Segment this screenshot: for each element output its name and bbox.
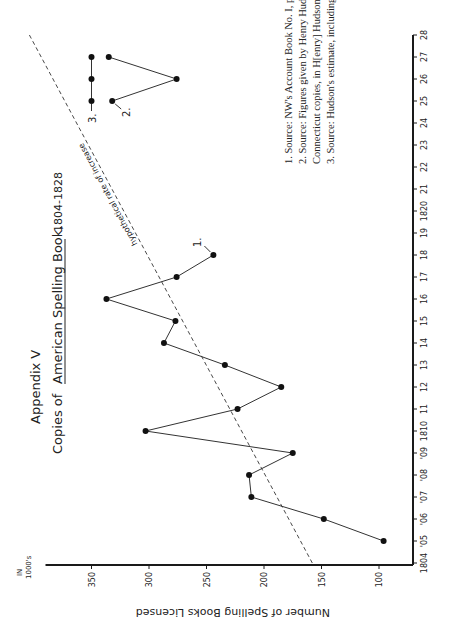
- series-1: 1.: [103, 237, 386, 544]
- x-tick-label: 27: [420, 52, 429, 62]
- series-group: 1.2.3.: [87, 54, 387, 544]
- y-axis-title: Number of Spelling Books Licensed: [136, 606, 330, 619]
- x-tick-label: 17: [420, 272, 429, 282]
- series-2: 2.: [106, 54, 180, 117]
- trend-label: hypothetical rate of increase: [77, 142, 139, 248]
- chart-title-range: 1804-1828: [52, 172, 65, 232]
- x-axis-ticks: 1804'05'06'07'08'09181011121314151617181…: [413, 30, 429, 573]
- x-tick-label: '08: [420, 469, 429, 481]
- x-tick-label: 25: [420, 96, 429, 106]
- x-tick-label: 16: [420, 294, 429, 304]
- x-tick-label: 11: [420, 404, 429, 414]
- data-point: [381, 538, 387, 544]
- data-point: [89, 98, 95, 104]
- y-tick-label: 200: [260, 572, 269, 587]
- x-tick-label: 18: [420, 250, 429, 260]
- line-chart: Appendix V Copies of American Spelling B…: [0, 0, 449, 634]
- x-tick-label: 24: [420, 118, 429, 128]
- footnote-2-cont: Connecticut copies, in H[enry] Hudson to…: [311, 0, 322, 164]
- series-3: 3.: [87, 54, 98, 123]
- series-label: 1.: [192, 237, 203, 247]
- chart-title: Copies of American Spelling Book, 1804-1…: [50, 172, 65, 454]
- y-unit-label-in: IN: [16, 569, 24, 576]
- data-point: [143, 428, 149, 434]
- x-tick-label: 23: [420, 140, 429, 150]
- data-point: [210, 252, 216, 258]
- y-tick-label: 150: [318, 572, 327, 587]
- data-point: [174, 274, 180, 280]
- data-point: [290, 450, 296, 456]
- series-label: 2.: [121, 107, 132, 117]
- data-point: [161, 340, 167, 346]
- x-tick-label: '05: [420, 535, 429, 547]
- data-point: [89, 76, 95, 82]
- data-point: [106, 54, 112, 60]
- x-tick-label: '06: [420, 513, 429, 525]
- x-tick-label: '09: [420, 447, 429, 459]
- x-tick-label: 1810: [420, 421, 429, 441]
- x-tick-label: 12: [420, 382, 429, 392]
- data-point: [246, 472, 252, 478]
- chart-title-prefix: Copies of: [50, 393, 65, 454]
- series-label-leader: [204, 246, 210, 252]
- chart-title-appendix: Appendix V: [28, 350, 43, 424]
- x-tick-label: 26: [420, 74, 429, 84]
- y-axis-ticks: 100150200250300350: [88, 565, 385, 587]
- x-tick-label: 21: [420, 184, 429, 194]
- x-tick-label: 14: [420, 338, 429, 348]
- series-line: [106, 255, 383, 541]
- data-point: [109, 98, 115, 104]
- chart-page: Appendix V Copies of American Spelling B…: [0, 0, 449, 634]
- x-tick-label: 15: [420, 316, 429, 326]
- chart-title-book: American Spelling Book,: [50, 226, 65, 384]
- y-unit-label-thousands: 1000's: [25, 555, 33, 579]
- series-line: [109, 57, 177, 101]
- trend-line: [29, 35, 312, 563]
- y-tick-label: 350: [88, 572, 97, 587]
- data-point: [172, 318, 178, 324]
- x-tick-label: '07: [420, 491, 429, 503]
- data-point: [103, 296, 109, 302]
- y-tick-label: 300: [145, 572, 154, 587]
- y-tick-label: 250: [203, 572, 212, 587]
- footnote-2: 2. Source: Figures given by Henry Hudson…: [297, 0, 308, 164]
- x-tick-label: 22: [420, 162, 429, 172]
- data-point: [278, 384, 284, 390]
- x-tick-label: 13: [420, 360, 429, 370]
- x-tick-label: 19: [420, 228, 429, 238]
- footnote-1: 1. Source: NW's Account Book No. I, pp. …: [283, 0, 294, 164]
- data-point: [174, 76, 180, 82]
- data-point: [89, 54, 95, 60]
- x-tick-label: 1804: [420, 553, 429, 573]
- y-tick-label: 100: [375, 572, 384, 587]
- series-label: 3.: [87, 113, 98, 123]
- data-point: [248, 494, 254, 500]
- data-point: [321, 516, 327, 522]
- x-tick-label: 28: [420, 30, 429, 40]
- data-point: [222, 362, 228, 368]
- x-tick-label: 1820: [420, 201, 429, 221]
- footnote-3: 3. Source: Hudson's estimate, including …: [325, 0, 337, 164]
- footnotes: 1. Source: NW's Account Book No. I, pp. …: [283, 0, 337, 164]
- data-point: [235, 406, 241, 412]
